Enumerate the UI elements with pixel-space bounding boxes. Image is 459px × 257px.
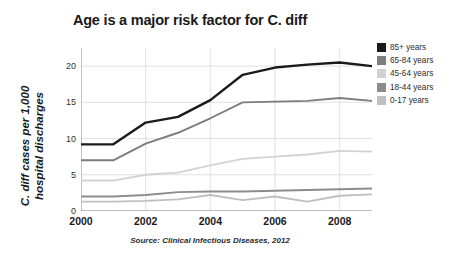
legend-item-label: 85+ years bbox=[390, 43, 426, 52]
x-axis-tick-labels: 20002002200420062008 bbox=[81, 215, 372, 231]
legend-item[interactable]: 18-44 years bbox=[377, 81, 459, 94]
legend-swatch-icon bbox=[377, 43, 386, 52]
x-axis-tick-label: 2008 bbox=[318, 215, 362, 227]
x-axis-tick-label: 2004 bbox=[188, 215, 232, 227]
chart-figure: Age is a major risk factor for C. diff C… bbox=[0, 0, 459, 257]
legend-item[interactable]: 85+ years bbox=[377, 41, 459, 54]
chart-title: Age is a major risk factor for C. diff bbox=[0, 12, 380, 28]
x-axis-tick-label: 2000 bbox=[59, 215, 103, 227]
x-axis-tick-label: 2002 bbox=[124, 215, 168, 227]
chart-legend: 85+ years65-84 years45-64 years18-44 yea… bbox=[377, 41, 459, 107]
source-note: Source: Clinical Infectious Diseases, 20… bbox=[0, 236, 420, 245]
series-line bbox=[81, 62, 372, 144]
plot-svg bbox=[81, 48, 372, 211]
legend-item-label: 65-84 years bbox=[390, 56, 433, 65]
y-axis-title: C. diff cases per 1,000 hospital dischar… bbox=[18, 64, 46, 229]
legend-item[interactable]: 0-17 years bbox=[377, 94, 459, 107]
plot-area bbox=[81, 48, 372, 211]
series-line bbox=[81, 98, 372, 160]
series-line bbox=[81, 189, 372, 197]
x-axis-tick-label: 2006 bbox=[253, 215, 297, 227]
legend-swatch-icon bbox=[377, 56, 386, 65]
legend-item-label: 45-64 years bbox=[390, 69, 433, 78]
legend-item[interactable]: 65-84 years bbox=[377, 54, 459, 67]
legend-swatch-icon bbox=[377, 69, 386, 78]
legend-item[interactable]: 45-64 years bbox=[377, 67, 459, 80]
legend-swatch-icon bbox=[377, 83, 386, 92]
y-axis-tick-label: 20 bbox=[54, 61, 76, 71]
y-axis-tick-label: 15 bbox=[54, 97, 76, 107]
legend-swatch-icon bbox=[377, 96, 386, 105]
y-axis-tick-label: 10 bbox=[54, 134, 76, 144]
y-axis-tick-labels: 05101520 bbox=[52, 48, 76, 211]
legend-item-label: 18-44 years bbox=[390, 83, 433, 92]
legend-item-label: 0-17 years bbox=[390, 96, 429, 105]
y-axis-tick-label: 5 bbox=[54, 170, 76, 180]
